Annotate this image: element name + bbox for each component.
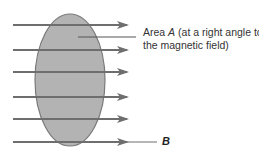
area-a-ellipse xyxy=(35,14,105,146)
magnetic-field-b-label: B xyxy=(162,135,170,148)
area-label-prefix: Area xyxy=(143,26,168,38)
area-label-line1: Area A (at a right angle to xyxy=(143,26,259,39)
area-label-suffix: (at a right angle to xyxy=(175,26,259,38)
area-a-label: Area A (at a right angle to the magnetic… xyxy=(143,26,259,52)
flux-diagram xyxy=(0,0,259,149)
area-label-line2: the magnetic field) xyxy=(143,39,259,52)
